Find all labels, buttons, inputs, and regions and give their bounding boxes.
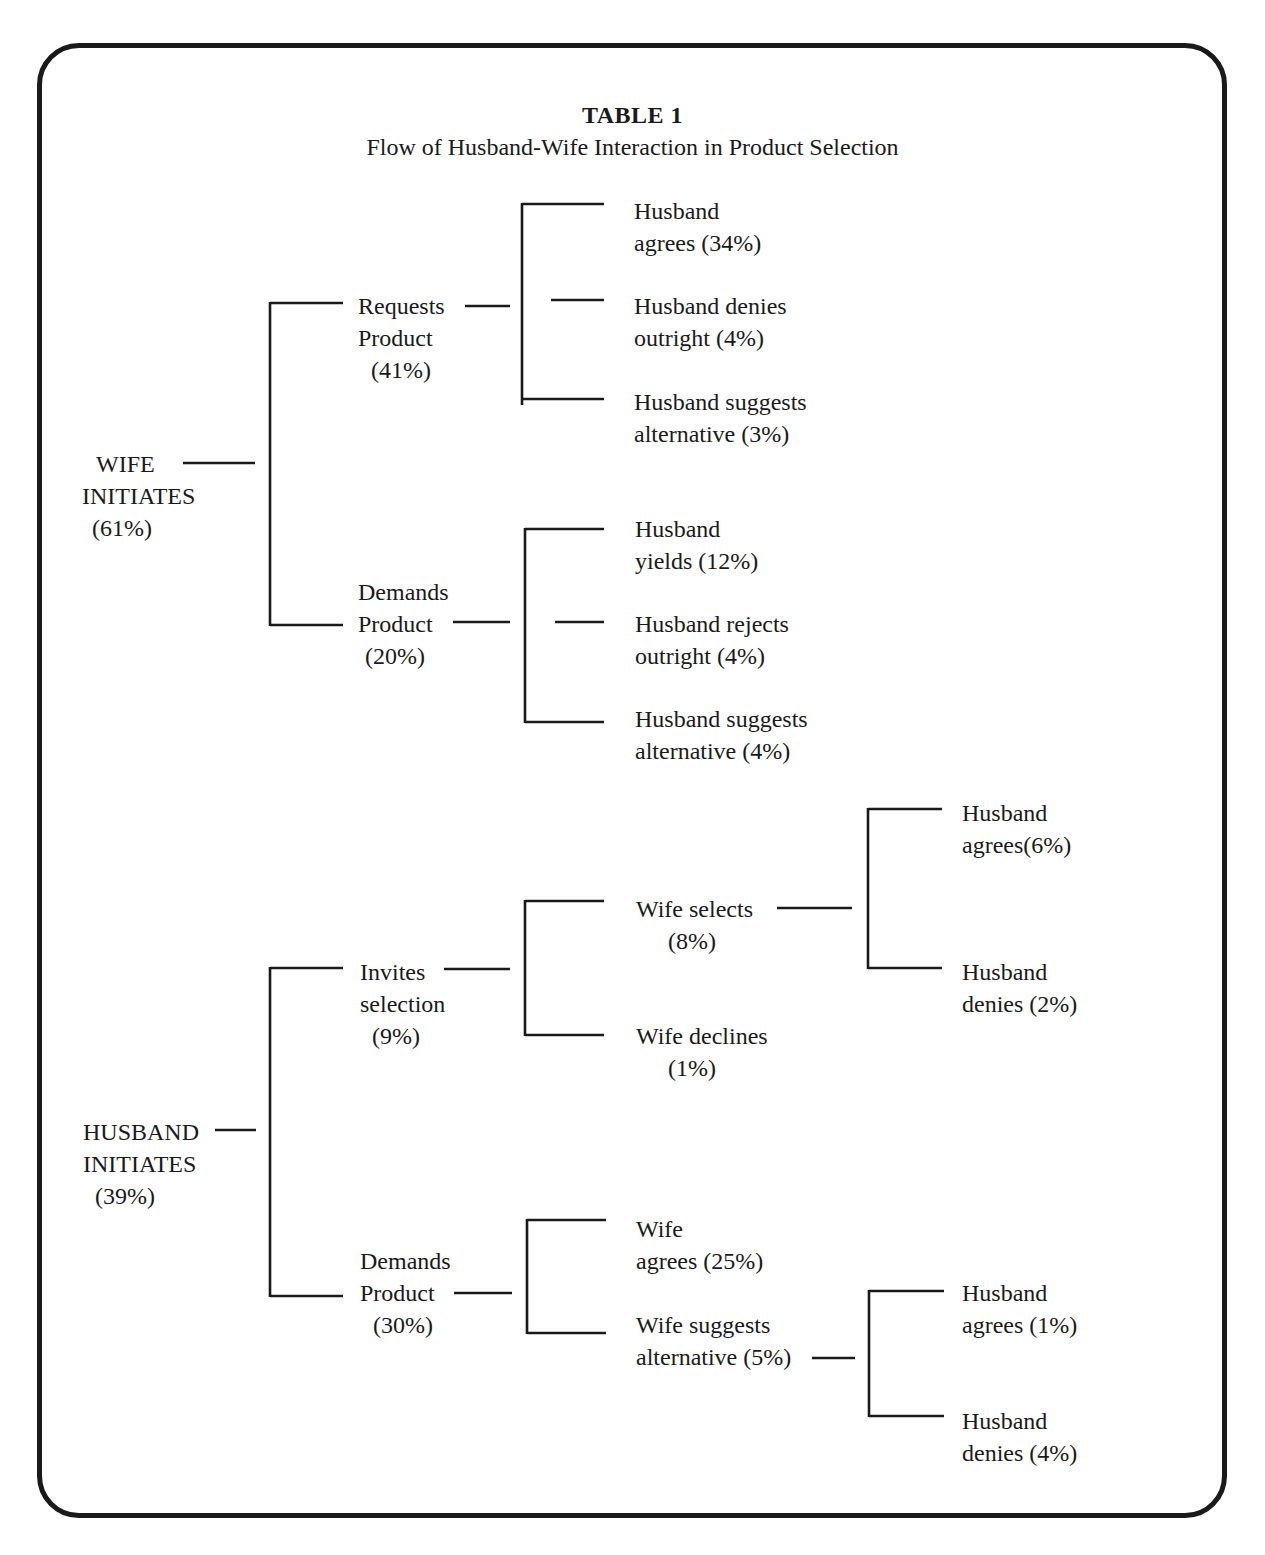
wife-selects-label: Wife selects bbox=[636, 893, 753, 925]
outcome-husband-agrees-to-alternative: Husband bbox=[962, 1277, 1047, 1309]
outcome-husband-denies-outright: Husband denies bbox=[634, 290, 787, 322]
wife-declines-label: Wife declines bbox=[636, 1020, 768, 1052]
wife-demands-product-pct: (20%) bbox=[365, 640, 425, 672]
outcome-husband-yields: Husband bbox=[635, 513, 720, 545]
outcome-husband-agrees: Husband bbox=[634, 195, 719, 227]
outcome-husband-denies-after-selection: Husband bbox=[962, 956, 1047, 988]
husband-demands-product-label-line2: Product bbox=[360, 1277, 435, 1309]
outcome-husband-rejects-outright-line2: outright (4%) bbox=[635, 640, 765, 672]
husband-initiates-pct: (39%) bbox=[95, 1180, 155, 1212]
outcome-husband-suggests-alternative-line2: alternative (3%) bbox=[634, 418, 789, 450]
wife-suggests-alternative-label-line2: alternative (5%) bbox=[636, 1341, 791, 1373]
outcome-husband-suggests-alternative: Husband suggests bbox=[634, 386, 807, 418]
outcome-husband-denies-alternative-line2: denies (4%) bbox=[962, 1437, 1077, 1469]
requests-product-label: Requests bbox=[358, 290, 445, 322]
wife-suggests-alternative-label: Wife suggests bbox=[636, 1309, 770, 1341]
wife-selects-pct: (8%) bbox=[668, 925, 716, 957]
outcome-husband-denies-alternative: Husband bbox=[962, 1405, 1047, 1437]
husband-demands-product-label: Demands bbox=[360, 1245, 451, 1277]
requests-product-label-line2: Product bbox=[358, 322, 433, 354]
wife-agrees-label-line2: agrees (25%) bbox=[636, 1245, 763, 1277]
outcome-husband-rejects-outright: Husband rejects bbox=[635, 608, 789, 640]
wife-initiates-label: WIFE bbox=[96, 448, 155, 480]
invites-selection-label-line2: selection bbox=[360, 988, 445, 1020]
outcome-husband-agrees-after-selection-line2: agrees(6%) bbox=[962, 829, 1071, 861]
wife-initiates-pct: (61%) bbox=[92, 512, 152, 544]
wife-initiates-label-line2: INITIATES bbox=[82, 480, 195, 512]
wife-demands-product-label-line2: Product bbox=[358, 608, 433, 640]
requests-product-pct: (41%) bbox=[371, 354, 431, 386]
outcome-husband-agrees-line2: agrees (34%) bbox=[634, 227, 761, 259]
wife-agrees-label: Wife bbox=[636, 1213, 683, 1245]
husband-initiates-label: HUSBAND bbox=[83, 1116, 199, 1148]
outcome-husband-yields-line2: yields (12%) bbox=[635, 545, 758, 577]
outcome-husband-agrees-after-selection: Husband bbox=[962, 797, 1047, 829]
husband-demands-product-pct: (30%) bbox=[373, 1309, 433, 1341]
invites-selection-pct: (9%) bbox=[372, 1020, 420, 1052]
outcome-husband-suggests-alternative-2-line2: alternative (4%) bbox=[635, 735, 790, 767]
outcome-husband-denies-outright-line2: outright (4%) bbox=[634, 322, 764, 354]
outcome-husband-denies-after-selection-line2: denies (2%) bbox=[962, 988, 1077, 1020]
wife-declines-pct: (1%) bbox=[668, 1052, 716, 1084]
invites-selection-label: Invites bbox=[360, 956, 425, 988]
wife-demands-product-label: Demands bbox=[358, 576, 449, 608]
husband-initiates-label-line2: INITIATES bbox=[83, 1148, 196, 1180]
outcome-husband-suggests-alternative-2: Husband suggests bbox=[635, 703, 808, 735]
outcome-husband-agrees-to-alternative-line2: agrees (1%) bbox=[962, 1309, 1077, 1341]
